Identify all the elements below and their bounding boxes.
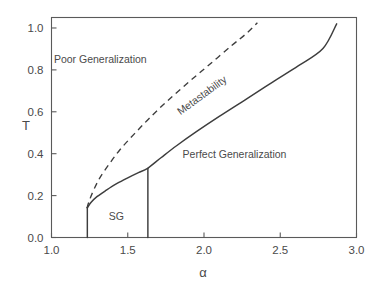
plot-frame	[52, 18, 357, 238]
y-tick-label-0: 0.0	[28, 232, 44, 244]
axes-frame	[52, 18, 357, 238]
x-tick-label-4: 3.0	[349, 244, 365, 256]
annotation-2: Perfect Generalization	[183, 148, 287, 160]
series-path-1	[87, 23, 258, 208]
x-tick-label-3: 2.5	[272, 244, 288, 256]
y-tick-label-5: 1.0	[28, 22, 44, 34]
phase-diagram-figure: 1.01.52.02.53.00.00.20.40.60.81.0 Poor G…	[0, 0, 373, 285]
y-axis-title: T	[22, 118, 30, 133]
series-path-0	[87, 24, 336, 208]
x-tick-label-2: 2.0	[196, 244, 212, 256]
x-tick-label-1: 1.5	[120, 244, 136, 256]
annotation-1: Metastability	[175, 72, 230, 116]
y-tick-label-1: 0.2	[28, 190, 44, 202]
chart-canvas: 1.01.52.02.53.00.00.20.40.60.81.0 Poor G…	[0, 0, 373, 285]
annotation-3: SG	[109, 210, 124, 222]
y-tick-label-4: 0.8	[28, 64, 44, 76]
annotation-0: Poor Generalization	[54, 53, 147, 65]
y-tick-label-2: 0.4	[28, 148, 45, 160]
chart-annotations: Poor GeneralizationMetastabilityPerfect …	[54, 53, 287, 222]
y-tick-label-3: 0.6	[28, 106, 44, 118]
x-tick-label-0: 1.0	[44, 244, 60, 256]
x-axis-title: α	[199, 265, 207, 280]
